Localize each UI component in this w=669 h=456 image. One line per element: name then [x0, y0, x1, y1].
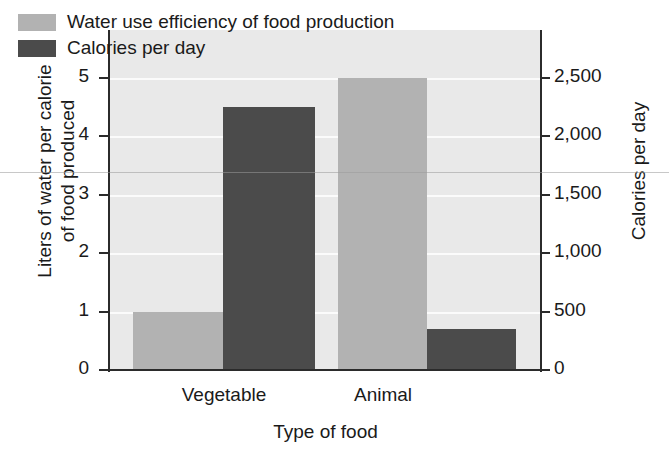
legend-label-calories: Calories per day — [67, 35, 205, 61]
gridline — [110, 253, 541, 255]
y-axis-right-tick-label: 1,000 — [554, 240, 602, 262]
y-axis-left-title: Liters of water per calorie of food prod… — [33, 21, 79, 321]
y-axis-left-tick — [99, 194, 108, 196]
x-axis-line — [108, 369, 542, 371]
y-axis-right-tick-label: 0 — [554, 357, 565, 379]
y-axis-right-tick-label: 2,000 — [554, 123, 602, 145]
y-axis-right-tick — [541, 311, 550, 313]
y-axis-right-tick-label: 2,500 — [554, 65, 602, 87]
bar-animal-water-use — [338, 78, 427, 370]
y-axis-left-tick-label: 0 — [29, 357, 89, 379]
y-axis-right-line — [540, 30, 542, 372]
y-axis-right-tick — [541, 369, 550, 371]
y-axis-left-tick — [99, 252, 108, 254]
y-axis-right-tick-label: 500 — [554, 299, 586, 321]
y-axis-right-tick — [541, 252, 550, 254]
y-axis-left-tick — [99, 77, 108, 79]
bar-animal-calories — [427, 329, 516, 370]
gridline — [110, 136, 541, 138]
y-axis-left-title-line1: Liters of water per calorie — [33, 21, 56, 321]
y-axis-left-line — [108, 30, 110, 372]
y-axis-left-title-line2: of food produced — [56, 21, 79, 321]
gridline — [110, 78, 541, 80]
legend-label-water-use: Water use efficiency of food production — [67, 9, 394, 35]
y-axis-right-tick — [541, 194, 550, 196]
bar-vegetable-water-use — [133, 312, 223, 370]
x-axis-title: Type of food — [110, 421, 541, 443]
y-axis-left-tick — [99, 369, 108, 371]
y-axis-right-tick — [541, 135, 550, 137]
y-axis-right-tick-label: 1,500 — [554, 182, 602, 204]
y-axis-right-tick — [541, 77, 550, 79]
x-axis-category-vegetable: Vegetable — [144, 384, 304, 406]
y-axis-left-tick — [99, 135, 108, 137]
x-axis-category-animal: Animal — [303, 384, 463, 406]
plot-area — [110, 30, 541, 370]
chart-figure: 01234505001,0001,5002,0002,500 Water use… — [0, 0, 669, 456]
bar-vegetable-calories — [223, 107, 315, 370]
gridline — [110, 195, 541, 197]
scan-artifact-line — [0, 172, 669, 173]
y-axis-left-tick — [99, 311, 108, 313]
y-axis-right-title: Calories per day — [628, 61, 650, 281]
